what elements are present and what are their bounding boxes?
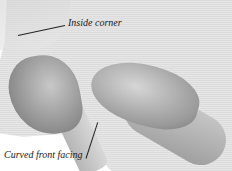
curved-front-facing-label: Curved front facing bbox=[4, 149, 83, 160]
photo: Inside corner Curved front facing bbox=[0, 0, 232, 171]
inside-corner-label: Inside corner bbox=[68, 17, 122, 28]
